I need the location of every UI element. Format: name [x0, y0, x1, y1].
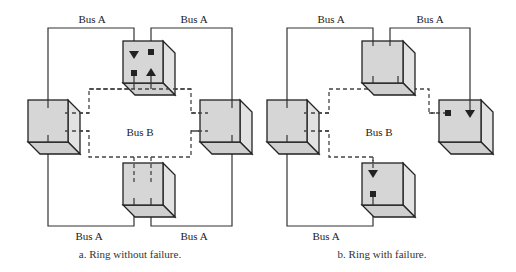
bus-a-label: Bus A [317, 13, 344, 25]
bus-a-label: Bus A [180, 13, 207, 25]
node-cube-right [429, 100, 493, 154]
bus-b-label: Bus B [126, 126, 153, 138]
bus-a-label: Bus A [312, 230, 339, 242]
panel-b-ring-with-failure: Bus A Bus A Bus B Bus A b. Ring with fai… [267, 13, 493, 260]
square-marker-icon [148, 49, 154, 55]
node-cube-bottom [123, 157, 175, 217]
bus-a-label: Bus A [180, 230, 207, 242]
node-cube-left [267, 100, 329, 154]
node-cube-right [191, 100, 252, 154]
node-cube-bottom [362, 157, 415, 217]
bus-a-label: Bus A [416, 13, 443, 25]
square-marker-icon [370, 191, 376, 197]
caption-a: a. Ring without failure. [79, 248, 182, 260]
bus-b-label: Bus B [365, 126, 392, 138]
bus-a-top-left-line [287, 28, 373, 108]
bus-a-top-left-line [48, 28, 134, 108]
bus-a-label: Bus A [78, 13, 105, 25]
ring-diagram-figure: Bus A Bus A Bus B Bus A Bus A a. Ring wi… [0, 0, 516, 272]
node-cube-top [123, 41, 175, 95]
node-cube-left [28, 100, 89, 154]
caption-b: b. Ring with failure. [338, 248, 427, 260]
node-cube-top [362, 41, 415, 95]
panel-a-ring-without-failure: Bus A Bus A Bus B Bus A Bus A a. Ring wi… [28, 13, 252, 260]
square-marker-icon [445, 110, 451, 116]
square-marker-icon [131, 70, 137, 76]
bus-a-label: Bus A [75, 230, 102, 242]
